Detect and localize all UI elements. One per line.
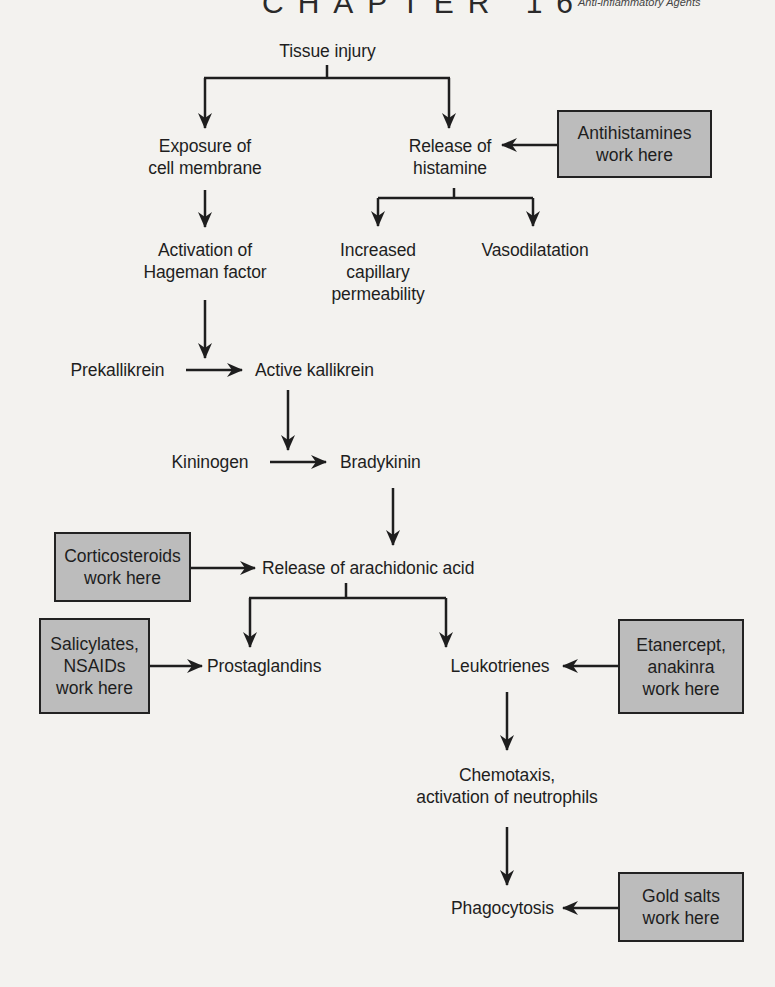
node-release-histamine: Release of histamine [390,135,510,179]
drug-box-salicylates-nsaids: Salicylates, NSAIDs work here [39,618,150,714]
node-vasodilatation: Vasodilatation [470,239,600,261]
node-bradykinin: Bradykinin [340,451,450,473]
node-increased-capillary-permeability: Increased capillary permeability [318,239,438,305]
node-tissue-injury: Tissue injury [270,40,385,62]
label-line: histamine [390,157,510,179]
diagram-canvas: CHAPTER 16 Anti-inflammatory Agents [0,0,775,987]
label-line: activation of neutrophils [392,786,622,808]
node-chemotaxis-neutrophils: Chemotaxis, activation of neutrophils [392,764,622,808]
arrow-injury-split [204,65,450,78]
node-kininogen: Kininogen [160,451,260,473]
label: Phagocytosis [445,897,560,919]
arrow-histamine-split [378,188,533,198]
label-line: Increased [318,239,438,261]
label: Prostaglandins [207,655,347,677]
label: Prekallikrein [55,359,180,381]
label-line: Activation of [122,239,288,261]
label: Release of arachidonic acid [262,557,502,579]
node-active-kallikrein: Active kallikrein [255,359,405,381]
node-leukotrienes: Leukotrienes [440,655,560,677]
node-exposure-cell-membrane: Exposure of cell membrane [125,135,285,179]
node-phagocytosis: Phagocytosis [445,897,560,919]
arrow-arachidonic-split [249,583,446,598]
label-line: Etanercept, [636,634,726,656]
label-line: Chemotaxis, [392,764,622,786]
drug-box-antihistamines: Antihistamines work here [557,110,712,178]
label-line: permeability [318,283,438,305]
label-line: Antihistamines [578,122,692,144]
label-line: Gold salts [642,885,720,907]
label: Kininogen [160,451,260,473]
label-line: work here [643,678,720,700]
label-line: Salicylates, [50,633,139,655]
label-line: work here [56,677,133,699]
label-line: Exposure of [125,135,285,157]
label-line: work here [596,144,673,166]
label-line: Release of [390,135,510,157]
drug-box-gold-salts: Gold salts work here [618,872,744,942]
label-line: cell membrane [125,157,285,179]
label-line: Hageman factor [122,261,288,283]
label: Leukotrienes [440,655,560,677]
label-line: NSAIDs [63,655,125,677]
node-activation-hageman: Activation of Hageman factor [122,239,288,283]
label-line: capillary [318,261,438,283]
label-line: anakinra [647,656,714,678]
label-line: work here [643,907,720,929]
node-prostaglandins: Prostaglandins [207,655,347,677]
node-prekallikrein: Prekallikrein [55,359,180,381]
label-line: work here [84,567,161,589]
label: Tissue injury [279,41,375,61]
label: Bradykinin [340,451,450,473]
drug-box-etanercept-anakinra: Etanercept, anakinra work here [618,619,744,714]
label-line: Corticosteroids [64,545,181,567]
node-release-arachidonic-acid: Release of arachidonic acid [262,557,502,579]
label-line: Vasodilatation [470,239,600,261]
drug-box-corticosteroids: Corticosteroids work here [54,532,191,602]
label: Active kallikrein [255,359,405,381]
